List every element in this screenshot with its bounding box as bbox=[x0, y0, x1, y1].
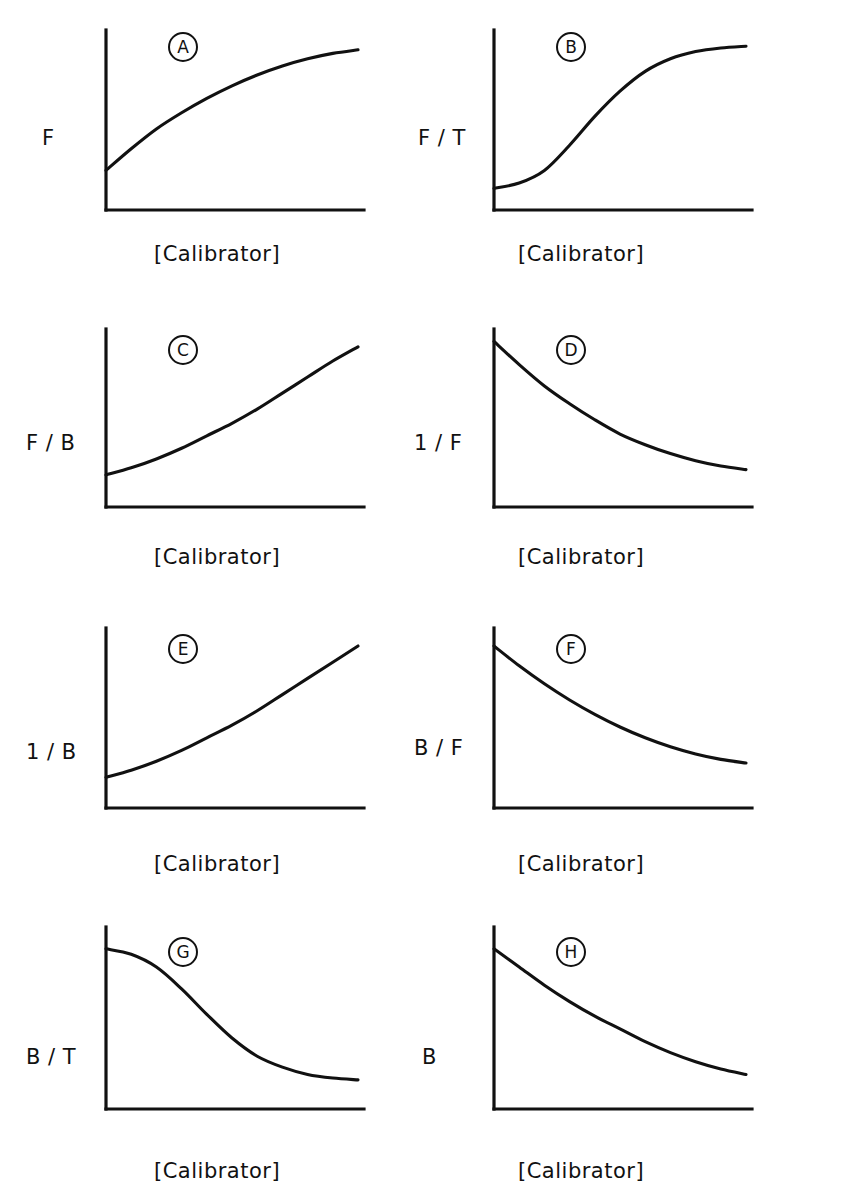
plot-area-f: FB / F[Calibrator] bbox=[426, 594, 838, 887]
y-axis-label-d: 1 / F bbox=[414, 431, 462, 455]
y-axis-label-b: F / T bbox=[418, 126, 466, 150]
plot-area-d: D1 / F[Calibrator] bbox=[426, 301, 838, 594]
data-curve bbox=[106, 50, 358, 171]
panel-letter-a: A bbox=[168, 32, 198, 62]
panel-h: HB[Calibrator] bbox=[426, 887, 838, 1180]
y-axis-label-g: B / T bbox=[26, 1045, 76, 1069]
panel-letter-e: E bbox=[168, 634, 198, 664]
x-axis-label-d: [Calibrator] bbox=[518, 545, 644, 569]
x-axis-label-g: [Calibrator] bbox=[154, 1159, 280, 1183]
plot-area-h: HB[Calibrator] bbox=[426, 887, 838, 1180]
axes-and-curve-h bbox=[426, 887, 852, 1183]
data-curve bbox=[494, 949, 746, 1075]
panel-a: AF[Calibrator] bbox=[14, 8, 426, 301]
panel-letter-b: B bbox=[556, 32, 586, 62]
x-axis-label-e: [Calibrator] bbox=[154, 852, 280, 876]
panel-letter-f: F bbox=[556, 634, 586, 664]
x-axis-label-f: [Calibrator] bbox=[518, 852, 644, 876]
axes-and-curve-f bbox=[426, 594, 852, 890]
x-axis-label-c: [Calibrator] bbox=[154, 545, 280, 569]
panel-letter-h: H bbox=[556, 937, 586, 967]
axes-and-curve-e bbox=[14, 594, 444, 890]
panel-letter-d: D bbox=[556, 335, 586, 365]
data-curve bbox=[494, 341, 746, 469]
data-curve bbox=[106, 646, 358, 777]
plot-area-g: GB / T[Calibrator] bbox=[14, 887, 426, 1180]
panel-letter-g: G bbox=[168, 937, 198, 967]
plot-area-e: E1 / B[Calibrator] bbox=[14, 594, 426, 887]
data-curve bbox=[106, 347, 358, 475]
panel-letter-c: C bbox=[168, 335, 198, 365]
panel-c: CF / B[Calibrator] bbox=[14, 301, 426, 594]
y-axis-label-c: F / B bbox=[26, 431, 75, 455]
data-curve bbox=[106, 949, 358, 1080]
panel-g: GB / T[Calibrator] bbox=[14, 887, 426, 1180]
x-axis-label-b: [Calibrator] bbox=[518, 242, 644, 266]
axes-and-curve-g bbox=[14, 887, 444, 1183]
y-axis-label-f: B / F bbox=[414, 736, 463, 760]
x-axis-label-h: [Calibrator] bbox=[518, 1159, 644, 1183]
plot-area-c: CF / B[Calibrator] bbox=[14, 301, 426, 594]
data-curve bbox=[494, 646, 746, 763]
y-axis-label-a: F bbox=[42, 126, 55, 150]
panel-b: BF / T[Calibrator] bbox=[426, 8, 838, 301]
plot-area-b: BF / T[Calibrator] bbox=[426, 8, 838, 301]
panel-e: E1 / B[Calibrator] bbox=[14, 594, 426, 887]
data-curve bbox=[494, 46, 746, 188]
y-axis-label-e: 1 / B bbox=[26, 740, 77, 764]
y-axis-label-h: B bbox=[422, 1045, 437, 1069]
panel-f: FB / F[Calibrator] bbox=[426, 594, 838, 887]
calibration-curve-figure: AF[Calibrator]BF / T[Calibrator]CF / B[C… bbox=[0, 0, 852, 1186]
plot-area-a: AF[Calibrator] bbox=[14, 8, 426, 301]
panel-d: D1 / F[Calibrator] bbox=[426, 301, 838, 594]
x-axis-label-a: [Calibrator] bbox=[154, 242, 280, 266]
